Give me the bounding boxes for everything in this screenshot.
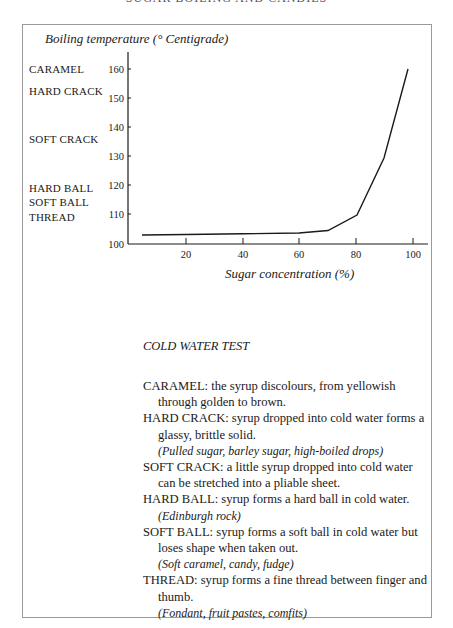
examples-thread: (Fondant, fruit pastes, comfits) [158, 605, 428, 621]
svg-text:100: 100 [108, 239, 124, 250]
x-tick-labels: 20 40 60 80 100 [181, 249, 421, 260]
svg-text:100: 100 [405, 249, 421, 260]
boiling-chart: 160 150 140 130 120 110 100 20 40 60 80 … [0, 0, 453, 300]
y-tick-labels: 160 150 140 130 120 110 100 [108, 64, 124, 250]
x-axis-title: Sugar concentration (%) [225, 266, 354, 282]
svg-text:80: 80 [351, 249, 362, 260]
entry-hard-ball: HARD BALL: syrup forms a hard ball in co… [143, 491, 428, 507]
svg-text:20: 20 [181, 249, 192, 260]
examples-hard-ball: (Edinburgh rock) [158, 508, 428, 524]
cold-water-test-title: COLD WATER TEST [143, 339, 249, 354]
svg-text:110: 110 [109, 209, 124, 220]
examples-soft-ball: (Soft caramel, candy, fudge) [158, 556, 428, 572]
entry-thread: THREAD: syrup forms a fine thread betwee… [143, 572, 428, 604]
entry-hard-crack: HARD CRACK: syrup dropped into cold wate… [143, 410, 428, 442]
cold-water-test-list: CARAMEL: the syrup discolours, from yell… [143, 378, 428, 621]
entry-soft-ball: SOFT BALL: syrup forms a soft ball in co… [143, 524, 428, 556]
svg-text:140: 140 [108, 122, 124, 133]
boiling-curve [142, 69, 408, 235]
svg-text:60: 60 [294, 249, 305, 260]
entry-soft-crack: SOFT CRACK: a little syrup dropped into … [143, 459, 428, 491]
svg-text:130: 130 [108, 151, 124, 162]
svg-text:160: 160 [108, 64, 124, 75]
svg-text:40: 40 [238, 249, 249, 260]
examples-hard-crack: (Pulled sugar, barley sugar, high-boiled… [158, 443, 428, 459]
x-axis-ticks [186, 238, 413, 244]
svg-text:120: 120 [108, 180, 124, 191]
svg-text:150: 150 [108, 93, 124, 104]
entry-caramel: CARAMEL: the syrup discolours, from yell… [143, 378, 428, 410]
